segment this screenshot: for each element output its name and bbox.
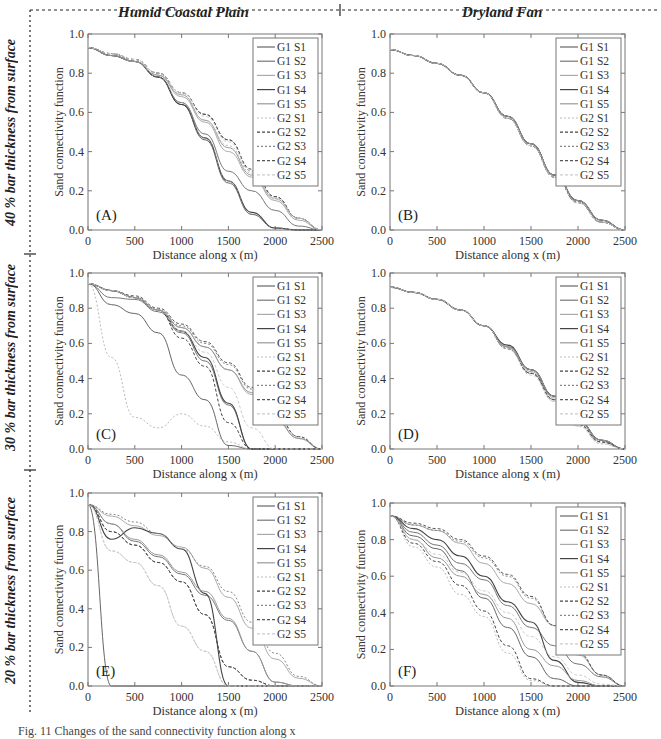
x-tick-label: 2000 xyxy=(566,690,590,704)
x-tick-label: 500 xyxy=(428,690,446,704)
x-axis-label: Distance along x (m) xyxy=(455,704,560,718)
x-tick-label: 1000 xyxy=(472,690,496,704)
y-axis-label: Sand connectivity function xyxy=(354,530,368,659)
legend-entry: G1 S4 xyxy=(580,553,609,565)
x-tick-label: 0 xyxy=(387,690,393,704)
legend-entry: G2 S2 xyxy=(580,595,609,607)
legend-entry: G2 S4 xyxy=(580,624,609,636)
y-tick-label: 0.0 xyxy=(371,679,386,693)
legend-entry: G2 S3 xyxy=(580,609,609,621)
legend-entry: G2 S1 xyxy=(580,581,609,593)
legend-entry: G1 S3 xyxy=(580,538,609,550)
y-tick-label: 0.4 xyxy=(371,606,386,620)
legend-entry: G1 S5 xyxy=(580,567,609,579)
y-tick-label: 0.2 xyxy=(371,642,386,656)
legend-entry: G1 S1 xyxy=(580,510,609,522)
chart-legend: G1 S1G1 S2G1 S3G1 S4G1 S5G2 S1G2 S2G2 S3… xyxy=(556,507,621,655)
y-tick-label: 0.6 xyxy=(371,569,386,583)
x-tick-label: 1500 xyxy=(519,690,543,704)
legend-entry: G2 S5 xyxy=(580,638,609,650)
legend-entry: G1 S2 xyxy=(580,524,609,536)
x-tick-label: 2500 xyxy=(613,690,637,704)
panel-label: (F) xyxy=(398,663,416,680)
y-tick-label: 1.0 xyxy=(371,496,386,510)
figure-caption: Fig. 11 Changes of the sand connectivity… xyxy=(18,724,296,739)
y-tick-label: 0.8 xyxy=(371,533,386,547)
